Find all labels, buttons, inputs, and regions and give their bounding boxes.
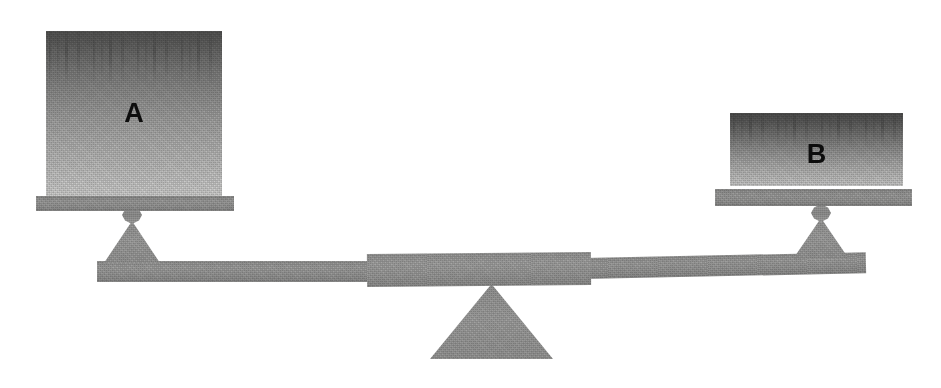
texture-overlay-diagonal: [97, 261, 375, 282]
texture-overlay: [97, 261, 375, 282]
weight-block-a: A: [46, 31, 222, 196]
beam-center-block: [367, 252, 591, 287]
support-left-triangle: [104, 221, 160, 263]
texture-overlay: [36, 196, 234, 211]
texture-overlay: [430, 284, 553, 359]
texture-overlay: [811, 204, 831, 222]
texture-overlay-diagonal: [367, 252, 591, 287]
block-a-top-streaks: [46, 31, 222, 87]
balance-scale-figure: A B: [0, 0, 941, 388]
texture-overlay-diagonal: [793, 218, 849, 259]
fulcrum-triangle: [430, 284, 553, 359]
weight-block-b: B: [730, 113, 903, 186]
texture-overlay: [793, 218, 849, 259]
texture-overlay-diagonal: [104, 221, 160, 263]
support-right-triangle: [793, 218, 849, 259]
pivot-knob-right: [811, 204, 831, 222]
block-b-label: B: [730, 141, 903, 168]
block-a-label: A: [46, 100, 222, 127]
texture-overlay: [367, 252, 591, 287]
texture-overlay-diagonal: [715, 189, 912, 206]
pan-right: [715, 189, 912, 206]
beam-left-arm: [97, 261, 375, 282]
texture-overlay-diagonal: [430, 284, 553, 359]
pan-left: [36, 196, 234, 211]
texture-overlay: [104, 221, 160, 263]
texture-overlay: [715, 189, 912, 206]
texture-overlay-diagonal: [36, 196, 234, 211]
